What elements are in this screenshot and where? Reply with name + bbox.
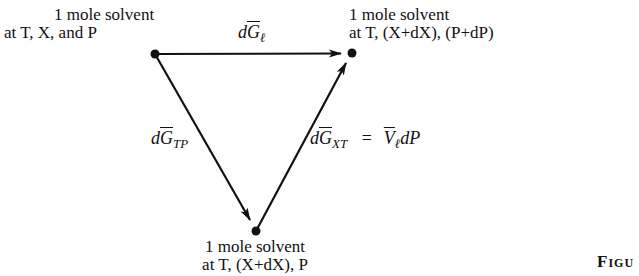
left-edge-sub: TP [173,136,188,151]
top-edge-d: d [238,22,247,42]
node-label-top-left: 1 mole solvent at T, X, and P [4,6,204,42]
node-label-bottom: 1 mole solvent at T, (X+dX), P [155,238,355,274]
node-label-top-right: 1 mole solvent at T, (X+dX), (P+dP) [349,6,639,42]
left-edge-G: G [160,128,173,148]
node-top-right-line-2: at T, (X+dX), (P+dP) [349,24,639,42]
edge-label-left: dGTP [151,128,188,152]
top-edge-G: G [247,22,260,42]
edge-label-top: dGℓ [238,22,265,46]
right-edge-d: d [310,128,319,148]
vertex-bottom-dot [252,227,261,236]
figure-caption: Figu [597,252,634,272]
node-bottom-line-1: 1 mole solvent [155,238,355,256]
node-top-left-line-1: 1 mole solvent [4,6,204,24]
top-edge-arrow [155,54,341,55]
top-edge-sub: ℓ [260,30,265,45]
vertex-top-right-dot [348,49,357,58]
left-edge-d: d [151,128,160,148]
edge-label-right: dGXT =VℓdP [310,128,420,152]
right-edge-equals: = [362,128,372,148]
right-edge-rhs-suffix: dP [400,128,420,148]
vertex-top-left-dot [151,50,160,59]
node-top-left-line-2: at T, X, and P [4,24,204,42]
right-edge-V: V [384,128,395,148]
right-edge-G: G [319,128,332,148]
node-bottom-line-2: at T, (X+dX), P [155,256,355,274]
node-top-right-line-1: 1 mole solvent [349,6,639,24]
right-edge-sub: XT [332,136,347,151]
